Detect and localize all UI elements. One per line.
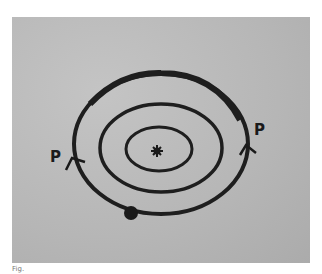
outer-orbit-thick-arc — [90, 73, 240, 120]
electron-dot — [124, 206, 138, 220]
label-left-p: P — [50, 148, 61, 166]
orbit-diagram: P P — [0, 0, 322, 274]
figure-caption: Fig. — [12, 265, 24, 273]
nucleus-icon — [151, 145, 163, 157]
label-right-p: P — [254, 121, 265, 139]
